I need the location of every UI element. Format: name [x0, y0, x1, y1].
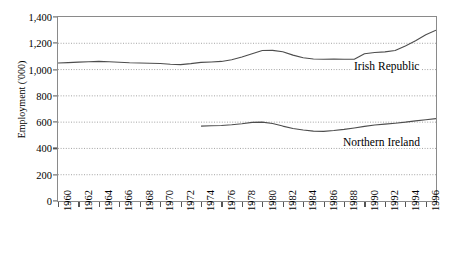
x-tick-label: 1976	[226, 190, 237, 211]
x-tick-label: 1970	[164, 190, 175, 211]
x-tick-label: 1990	[369, 190, 380, 211]
data-series	[58, 30, 436, 131]
x-tick-mark-major	[119, 202, 120, 207]
x-tick-mark-major	[344, 202, 345, 207]
x-tick-label: 1996	[430, 190, 441, 211]
x-tick-mark-major	[160, 202, 161, 207]
y-tick-label: 1,400	[0, 12, 57, 23]
x-tick-mark-major	[242, 202, 243, 207]
x-tick-mark-major	[58, 202, 59, 207]
series-canvas	[58, 17, 436, 201]
x-tick-mark-major	[405, 202, 406, 207]
x-tick-label: 1968	[144, 190, 155, 211]
x-tick-label: 1988	[348, 190, 359, 211]
x-tick-label: 1960	[62, 190, 73, 211]
chart-container: Employment ('000) 02004006008001,0001,20…	[0, 0, 461, 258]
x-tick-label: 1986	[328, 190, 339, 211]
x-tick-mark-major	[262, 202, 263, 207]
y-tick-label: 600	[0, 117, 57, 128]
y-tick-label: 400	[0, 143, 57, 154]
x-tick-label: 1974	[205, 190, 216, 211]
series-line-northern-ireland	[201, 119, 436, 132]
x-tick-mark-major	[181, 202, 182, 207]
x-tick-label: 1984	[307, 190, 318, 211]
x-tick-label: 1964	[103, 190, 114, 211]
y-tick-label: 1,200	[0, 38, 57, 49]
x-tick-label: 1962	[83, 190, 94, 211]
x-tick-label: 1992	[389, 190, 400, 211]
x-tick-mark-major	[78, 202, 79, 207]
x-tick-label: 1980	[267, 190, 278, 211]
x-tick-mark-major	[364, 202, 365, 207]
x-tick-label: 1966	[123, 190, 134, 211]
x-tick-mark-major	[426, 202, 427, 207]
series-label-irish-republic: Irish Republic	[352, 60, 421, 72]
x-tick-mark-major	[303, 202, 304, 207]
y-tick-label: 800	[0, 90, 57, 101]
x-tick-mark-major	[324, 202, 325, 207]
x-tick-mark-major	[201, 202, 202, 207]
y-tick-label: 200	[0, 169, 57, 180]
x-tick-label: 1982	[287, 190, 298, 211]
x-tick-label: 1978	[246, 190, 257, 211]
x-tick-mark-major	[283, 202, 284, 207]
x-tick-label: 1972	[185, 190, 196, 211]
plot-area	[57, 16, 437, 202]
x-tick-mark-major	[99, 202, 100, 207]
x-tick-label: 1994	[410, 190, 421, 211]
y-tick-label: 1,000	[0, 64, 57, 75]
y-tick-label: 0	[0, 196, 57, 207]
x-tick-mark-major	[385, 202, 386, 207]
x-tick-mark-major	[221, 202, 222, 207]
series-label-northern-ireland: Northern Ireland	[341, 136, 422, 148]
x-tick-mark-major	[140, 202, 141, 207]
